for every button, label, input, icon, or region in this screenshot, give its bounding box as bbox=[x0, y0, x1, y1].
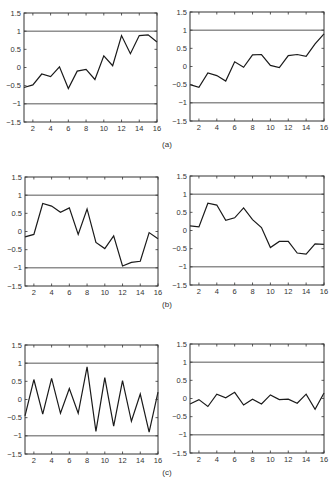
x-tick-label: 14 bbox=[136, 288, 144, 297]
x-tick-label: 4 bbox=[215, 455, 219, 464]
x-tick-label: 12 bbox=[284, 123, 292, 132]
x-tick-label: 2 bbox=[32, 288, 36, 297]
caption-c: (c) bbox=[162, 468, 171, 477]
x-tick-label: 16 bbox=[154, 288, 162, 297]
y-tick-label: 0.5 bbox=[12, 377, 22, 386]
axes-frame bbox=[190, 176, 324, 285]
y-tick-label: 1.5 bbox=[11, 9, 21, 18]
data-series-line bbox=[190, 203, 324, 254]
x-tick-label: 14 bbox=[302, 455, 310, 464]
y-tick-label: 1 bbox=[17, 27, 21, 36]
y-tick-label: 1 bbox=[183, 26, 187, 35]
y-tick-label: 0 bbox=[18, 227, 22, 236]
data-series-line bbox=[25, 367, 158, 432]
x-tick-label: 4 bbox=[215, 123, 219, 132]
x-tick-label: 16 bbox=[320, 287, 328, 296]
y-tick-label: 0 bbox=[17, 63, 21, 72]
x-tick-label: 8 bbox=[250, 123, 254, 132]
y-tick-label: −1 bbox=[178, 98, 187, 107]
x-tick-label: 10 bbox=[100, 124, 108, 133]
y-tick-label: 1.5 bbox=[12, 341, 22, 350]
y-tick-label: 0 bbox=[18, 395, 22, 404]
y-tick-label: −1 bbox=[12, 99, 21, 108]
chart-a-right: 2468101214161.510.50−0.5−1−1.5 bbox=[172, 8, 328, 132]
data-series-line bbox=[24, 35, 157, 89]
y-tick-label: 1 bbox=[18, 191, 22, 200]
axes-frame bbox=[25, 177, 158, 286]
y-tick-label: −1.5 bbox=[6, 118, 21, 127]
data-series-line bbox=[190, 34, 324, 87]
x-tick-label: 12 bbox=[118, 288, 126, 297]
x-tick-label: 10 bbox=[266, 123, 274, 132]
x-tick-label: 14 bbox=[135, 124, 143, 133]
y-tick-label: −1.5 bbox=[172, 281, 187, 290]
y-tick-label: 0.5 bbox=[11, 45, 21, 54]
x-tick-label: 2 bbox=[197, 455, 201, 464]
y-tick-label: −0.5 bbox=[172, 244, 187, 253]
data-series-line bbox=[190, 392, 324, 409]
x-tick-label: 6 bbox=[67, 288, 71, 297]
x-tick-label: 4 bbox=[49, 124, 53, 133]
y-tick-label: −1.5 bbox=[7, 282, 22, 291]
caption-a: (a) bbox=[162, 140, 172, 149]
y-tick-label: −0.5 bbox=[6, 81, 21, 90]
plots-canvas: 2468101214161.510.50−0.5−1−1.52468101214… bbox=[0, 0, 334, 484]
x-tick-label: 10 bbox=[101, 288, 109, 297]
x-tick-label: 6 bbox=[67, 456, 71, 465]
y-tick-label: −1 bbox=[178, 430, 187, 439]
x-tick-label: 6 bbox=[66, 124, 70, 133]
y-tick-label: 0.5 bbox=[177, 376, 187, 385]
y-tick-label: −1.5 bbox=[7, 450, 22, 459]
axes-frame bbox=[24, 13, 157, 122]
x-tick-label: 16 bbox=[320, 455, 328, 464]
y-tick-label: 1 bbox=[183, 358, 187, 367]
y-tick-label: 0 bbox=[183, 62, 187, 71]
y-tick-label: −1 bbox=[13, 431, 22, 440]
y-tick-label: 0.5 bbox=[177, 208, 187, 217]
y-tick-label: −0.5 bbox=[7, 245, 22, 254]
x-tick-label: 12 bbox=[117, 124, 125, 133]
x-tick-label: 8 bbox=[84, 124, 88, 133]
x-tick-label: 10 bbox=[266, 455, 274, 464]
y-tick-label: 1.5 bbox=[177, 8, 187, 17]
y-tick-label: 1.5 bbox=[177, 172, 187, 181]
x-tick-label: 8 bbox=[250, 455, 254, 464]
data-series-line bbox=[25, 204, 158, 266]
y-tick-label: −1 bbox=[178, 262, 187, 271]
x-tick-label: 8 bbox=[85, 288, 89, 297]
y-tick-label: 1 bbox=[183, 190, 187, 199]
figure: 2468101214161.510.50−0.5−1−1.52468101214… bbox=[0, 0, 334, 484]
x-tick-label: 2 bbox=[31, 124, 35, 133]
x-tick-label: 12 bbox=[284, 287, 292, 296]
x-tick-label: 16 bbox=[154, 456, 162, 465]
x-tick-label: 4 bbox=[50, 288, 54, 297]
x-tick-label: 2 bbox=[197, 287, 201, 296]
x-tick-label: 2 bbox=[197, 123, 201, 132]
x-tick-label: 6 bbox=[233, 455, 237, 464]
x-tick-label: 16 bbox=[153, 124, 161, 133]
y-tick-label: −0.5 bbox=[7, 413, 22, 422]
x-tick-label: 12 bbox=[118, 456, 126, 465]
axes-frame bbox=[190, 12, 324, 121]
x-tick-label: 6 bbox=[233, 287, 237, 296]
x-tick-label: 10 bbox=[101, 456, 109, 465]
x-tick-label: 8 bbox=[250, 287, 254, 296]
y-tick-label: −1 bbox=[13, 263, 22, 272]
x-tick-label: 12 bbox=[284, 455, 292, 464]
x-tick-label: 4 bbox=[215, 287, 219, 296]
y-tick-label: 0.5 bbox=[177, 44, 187, 53]
chart-c-right: 2468101214161.510.50−0.5−1−1.5 bbox=[172, 340, 328, 464]
y-tick-label: 0 bbox=[183, 226, 187, 235]
chart-a-left: 2468101214161.510.50−0.5−1−1.5 bbox=[6, 9, 161, 133]
y-tick-label: −0.5 bbox=[172, 80, 187, 89]
x-tick-label: 10 bbox=[266, 287, 274, 296]
chart-c-left: 2468101214161.510.50−0.5−1−1.5 bbox=[7, 341, 162, 465]
axes-frame bbox=[190, 344, 324, 453]
x-tick-label: 6 bbox=[233, 123, 237, 132]
x-tick-label: 16 bbox=[320, 123, 328, 132]
x-tick-label: 14 bbox=[302, 123, 310, 132]
y-tick-label: 1.5 bbox=[177, 340, 187, 349]
y-tick-label: 1.5 bbox=[12, 173, 22, 182]
x-tick-label: 4 bbox=[50, 456, 54, 465]
chart-b-left: 2468101214161.510.50−0.5−1−1.5 bbox=[7, 173, 162, 297]
